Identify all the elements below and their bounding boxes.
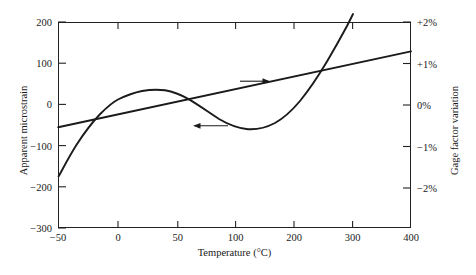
x-tick-label-300: 300 xyxy=(333,232,373,243)
y-right-tick-label-plus2: +2% xyxy=(417,17,457,28)
x-tick-label-minus50: −50 xyxy=(38,232,78,243)
x-tick-marks xyxy=(118,22,353,228)
x-tick-label-100: 100 xyxy=(216,232,256,243)
y-right-tick-marks xyxy=(403,22,411,188)
y-left-tick-label-minus100: −100 xyxy=(8,140,52,151)
curve-gage-factor-variation xyxy=(58,51,411,127)
x-tick-label-200: 200 xyxy=(274,232,314,243)
chart-figure: 200 100 0 −100 −200 −300 +2% +1% 0% −1% … xyxy=(0,0,476,275)
y-axis-left-title: Apparent microstrain xyxy=(18,56,29,206)
arrow-to-microstrain-curve xyxy=(193,123,228,129)
x-axis-title: Temperature (°C) xyxy=(58,247,411,258)
y-left-tick-label-0: 0 xyxy=(8,99,52,110)
x-tick-label-50: 50 xyxy=(158,232,198,243)
y-left-tick-label-200: 200 xyxy=(8,17,52,28)
y-left-tick-label-minus200: −200 xyxy=(8,181,52,192)
y-left-tick-label-100: 100 xyxy=(8,58,52,69)
x-tick-label-400: 400 xyxy=(391,232,431,243)
y-axis-right-title: Gage factor variation xyxy=(449,51,460,211)
x-tick-label-0: 0 xyxy=(98,232,138,243)
